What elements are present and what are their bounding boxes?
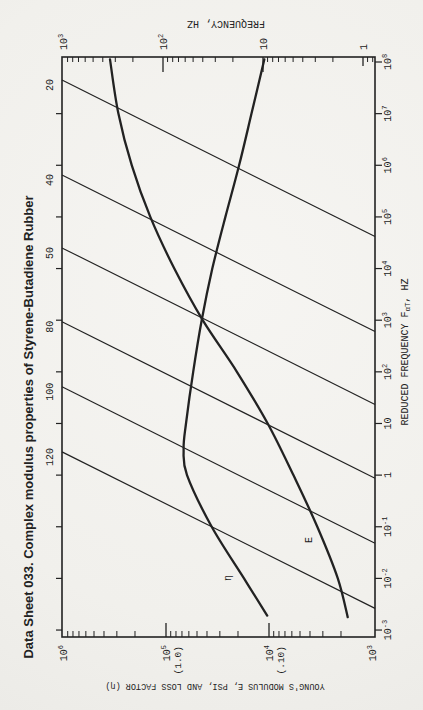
frequency-tick-label: 1 bbox=[359, 44, 370, 50]
modulus-tick-label: 103 bbox=[366, 645, 379, 661]
reduced-frequency-tick-label: 10 bbox=[383, 417, 394, 429]
reduced-frequency-tick-label: 10-3 bbox=[381, 620, 394, 640]
data-curves-group: Eη bbox=[110, 59, 348, 617]
modulus-tick-label: 105 bbox=[160, 645, 173, 661]
loss-factor-curve bbox=[184, 59, 268, 615]
temperature-label: 100 bbox=[45, 383, 56, 401]
frequency-tick-label: 103 bbox=[57, 34, 70, 50]
temperature-label: 40 bbox=[45, 174, 56, 186]
frequency-axis-title: FREQUENCY, HZ bbox=[187, 18, 265, 29]
loss-factor-scale-note: (.10) bbox=[276, 646, 287, 675]
modulus-tick-label: 106 bbox=[57, 645, 70, 661]
reduced-frequency-tick-label: 104 bbox=[381, 260, 394, 276]
loss-factor-scale-note: (1.0) bbox=[173, 646, 184, 675]
reduced-frequency-tick-label: 105 bbox=[381, 209, 394, 225]
plot-area-group: 10310210110810710610510410310210110-110-… bbox=[21, 18, 412, 691]
temperature-label: 20 bbox=[45, 79, 56, 91]
isotherm-line-40 bbox=[62, 175, 375, 332]
reduced-frequency-tick-label: 103 bbox=[381, 312, 394, 328]
reduced-frequency-tick-label: 108 bbox=[381, 54, 394, 70]
temperature-label: 50 bbox=[45, 247, 56, 259]
reduced-frequency-tick-label: 106 bbox=[381, 157, 394, 173]
isotherm-line-50 bbox=[62, 248, 375, 404]
nomogram-chart-svg: 10310210110810710610510410310210110-110-… bbox=[0, 0, 423, 710]
reduced-frequency-tick-label: 102 bbox=[381, 364, 394, 380]
isotherm-lines-group: 20405080100120 bbox=[45, 79, 375, 608]
frequency-tick-label: 102 bbox=[157, 34, 170, 50]
reduced-frequency-tick-label: 107 bbox=[381, 106, 394, 122]
loss-factor-curve-label: η bbox=[223, 575, 234, 581]
reduced-frequency-axis-title: REDUCED FREQUENCY FαT, HZ bbox=[400, 278, 412, 425]
reduced-frequency-tick-label: 1 bbox=[383, 472, 394, 478]
axis-titles-group: FREQUENCY, HZYOUNG'S MODULUS E, PSI, AND… bbox=[105, 18, 412, 691]
isotherm-line-100 bbox=[62, 387, 375, 544]
modulus-axis-title: YOUNG'S MODULUS E, PSI, AND LOSS FACTOR … bbox=[105, 681, 324, 691]
temperature-label: 80 bbox=[45, 321, 56, 333]
isotherm-line-20 bbox=[62, 80, 375, 237]
scanned-data-sheet-page: 10310210110810710610510410310210110-110-… bbox=[0, 0, 423, 710]
isotherm-line-120 bbox=[62, 452, 375, 609]
temperature-label: 120 bbox=[45, 448, 56, 466]
modulus-curve-label: E bbox=[304, 537, 315, 543]
frequency-tick-label: 10 bbox=[259, 38, 270, 50]
page-title: Data Sheet 033. Complex modulus properti… bbox=[21, 195, 36, 658]
reduced-frequency-tick-label: 10-1 bbox=[381, 517, 394, 537]
chart-title-group: Data Sheet 033. Complex modulus properti… bbox=[21, 195, 36, 658]
reduced-frequency-tick-label: 10-2 bbox=[381, 568, 394, 588]
youngs-modulus-curve bbox=[110, 59, 348, 617]
modulus-tick-label: 104 bbox=[263, 645, 276, 661]
